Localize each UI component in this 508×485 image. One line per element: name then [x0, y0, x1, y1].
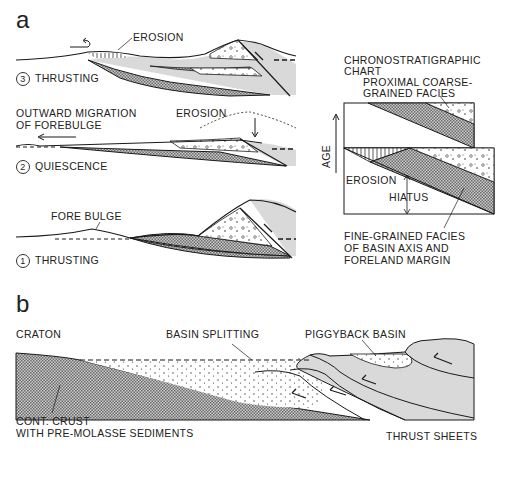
- crust-line2: WITH PRE-MOLASSE SEDIMENTS: [16, 427, 194, 439]
- stage2-number: 2: [16, 160, 30, 174]
- migration-line2: OF FOREBULGE: [16, 119, 102, 131]
- migration-line1: OUTWARD MIGRATION: [16, 107, 137, 119]
- stage3-erosion-label: EROSION: [133, 31, 184, 43]
- stage3-profile: [16, 38, 296, 96]
- chrono-erosion-label: EROSION: [346, 174, 397, 186]
- stage1-number: 1: [16, 254, 30, 268]
- basin-splitting-label: BASIN SPLITTING: [166, 328, 259, 340]
- stage3-title-text: THRUSTING: [35, 72, 99, 84]
- panel-a-label: a: [16, 8, 29, 32]
- panel-b-section: [16, 339, 474, 420]
- stage3-title: 3THRUSTING: [16, 72, 99, 86]
- proximal-line2: GRAINED FACIES: [363, 87, 455, 99]
- stage2-erosion-label: EROSION: [176, 107, 227, 119]
- stage2-title-text: QUIESCENCE: [35, 160, 107, 172]
- forebulge-label: FORE BULGE: [51, 210, 122, 222]
- fine-line2: OF BASIN AXIS AND: [344, 242, 449, 254]
- craton-label: CRATON: [16, 328, 61, 340]
- stage1-title: 1THRUSTING: [16, 254, 99, 268]
- age-axis-label: AGE: [320, 145, 332, 168]
- panel-b-label: b: [16, 292, 29, 316]
- thrust-sheets-label: THRUST SHEETS: [386, 430, 477, 442]
- stage2-title: 2QUIESCENCE: [16, 160, 107, 174]
- stage1-title-text: THRUSTING: [35, 254, 99, 266]
- hiatus-label: HIATUS: [389, 191, 429, 203]
- fine-line1: FINE-GRAINED FACIES: [344, 230, 465, 242]
- crust-line1: CONT. CRUST: [16, 415, 90, 427]
- fine-line3: FORELAND MARGIN: [344, 254, 451, 266]
- stage3-number: 3: [16, 72, 30, 86]
- stage1-profile: [16, 199, 296, 258]
- piggyback-label: PIGGYBACK BASIN: [305, 328, 406, 340]
- chrono-chart: [333, 96, 494, 228]
